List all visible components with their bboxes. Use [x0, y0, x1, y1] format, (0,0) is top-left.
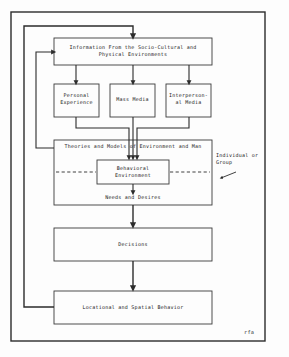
node-label-locational: Locational and Spatial Behavior [54, 304, 212, 311]
node-label-interpersonal-media: Interperson- al Media [166, 92, 211, 106]
connector-interpersonal-to-bus [137, 117, 189, 139]
annotation-individual-or-group: Individual or Group [216, 152, 282, 166]
node-label-mass-media: Mass Media [110, 96, 155, 103]
node-label-personal-experience: Personal Experience [54, 92, 99, 106]
feedback-theories-to-information [36, 52, 54, 148]
node-label-behavioral-environment: Behavioral Environment [97, 165, 169, 179]
connector-personal-to-bus [76, 117, 129, 139]
node-label-decisions: Decisions [54, 241, 212, 248]
artist-signature: rfa [244, 329, 254, 335]
node-label-information: Information From the Socio-Cultural and … [54, 44, 212, 58]
node-label-theories: Theories and Models of Environment and M… [54, 143, 212, 150]
edge-label-needs-and-desires: Needs and Desires [83, 194, 183, 201]
annotation-leader-arrow [221, 172, 236, 178]
diagram-canvas: Information From the Socio-Cultural and … [0, 0, 289, 357]
